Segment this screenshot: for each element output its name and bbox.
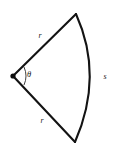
angle-marker-arc: [24, 67, 26, 85]
upper-radius-line: [13, 14, 76, 76]
sector-diagram: r r s θ: [0, 0, 113, 153]
lower-radius-label: r: [40, 116, 44, 125]
upper-radius-label: r: [38, 31, 42, 40]
sector-figure-canvas: r r s θ: [0, 0, 113, 153]
angle-theta-label: θ: [27, 69, 31, 79]
arc-length-label: s: [103, 72, 106, 81]
lower-radius-line: [13, 76, 75, 142]
vertex-dot: [10, 73, 15, 78]
arc-line: [75, 14, 90, 142]
